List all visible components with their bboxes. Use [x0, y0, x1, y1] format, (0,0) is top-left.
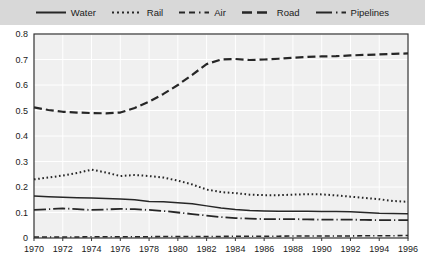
y-axis-tick-label: 0.5	[15, 106, 28, 116]
x-axis-tick-label: 1970	[24, 244, 44, 254]
chart-legend: Water Rail Air Road	[0, 0, 425, 25]
legend-item-pipelines[interactable]: Pipelines	[316, 8, 390, 18]
legend-item-water[interactable]: Water	[36, 8, 96, 18]
y-axis-tick-label: 0.1	[15, 208, 28, 218]
line-dashed-icon	[242, 8, 272, 17]
x-axis-tick-label: 1996	[398, 244, 418, 254]
x-axis-tick-label: 1984	[225, 244, 245, 254]
y-axis-tick-label: 0.7	[15, 55, 28, 65]
x-axis-tick-label: 1974	[82, 244, 102, 254]
plot-area: 0.80.70.60.50.40.30.20.10197019721974197…	[0, 25, 425, 266]
x-axis-tick-label: 1994	[369, 244, 389, 254]
legend-item-air[interactable]: Air	[179, 8, 226, 18]
x-axis-tick-label: 1976	[110, 244, 130, 254]
line-dashdot-icon	[179, 8, 209, 17]
y-axis-tick-label: 0.2	[15, 182, 28, 192]
legend-label-road: Road	[277, 8, 300, 18]
x-axis-tick-label: 1980	[168, 244, 188, 254]
legend-label-water: Water	[71, 8, 96, 18]
y-axis-tick-label: 0.3	[15, 157, 28, 167]
line-dotted-icon	[112, 8, 142, 17]
chart-canvas: 0.80.70.60.50.40.30.20.10197019721974197…	[0, 25, 425, 266]
legend-label-rail: Rail	[147, 8, 163, 18]
x-axis-tick-label: 1986	[254, 244, 274, 254]
y-axis-tick-label: 0.8	[15, 29, 28, 39]
y-axis-tick-label: 0	[23, 233, 28, 243]
y-axis-tick-label: 0.4	[15, 131, 28, 141]
y-axis-tick-label: 0.6	[15, 80, 28, 90]
legend-item-road[interactable]: Road	[242, 8, 300, 18]
chart-container: Water Rail Air Road	[0, 0, 425, 266]
x-axis-tick-label: 1982	[197, 244, 217, 254]
legend-label-air: Air	[214, 8, 226, 18]
legend-label-pipelines: Pipelines	[351, 8, 390, 18]
line-dashdot2-icon	[316, 8, 346, 17]
line-solid-icon	[36, 8, 66, 17]
x-axis-tick-label: 1972	[53, 244, 73, 254]
x-axis-tick-label: 1992	[340, 244, 360, 254]
x-axis-tick-label: 1990	[312, 244, 332, 254]
legend-item-rail[interactable]: Rail	[112, 8, 163, 18]
x-axis-tick-label: 1978	[139, 244, 159, 254]
x-axis-tick-label: 1988	[283, 244, 303, 254]
